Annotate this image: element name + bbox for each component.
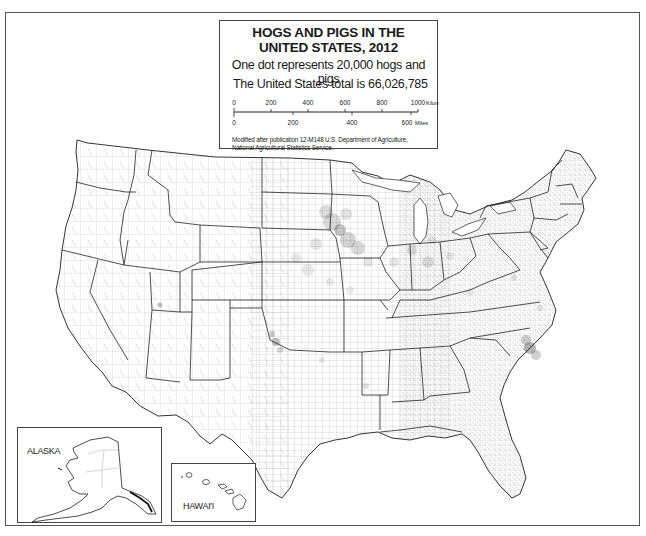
- credit-line2: National Agricultural Statistics Service…: [232, 144, 408, 152]
- km-tick-200: 200: [266, 99, 277, 106]
- mi-tick-600: 600: [402, 119, 413, 126]
- hawaii-inset: HAWAI'I: [171, 463, 256, 522]
- km-tick-1000: 1000: [411, 99, 426, 106]
- mi-tick-200: 200: [288, 119, 299, 126]
- total-text: The United States total is 66,026,785: [233, 77, 428, 91]
- mi-tick-0: 0: [232, 119, 236, 126]
- map-title: HOGS AND PIGS IN THE UNITED STATES, 2012: [220, 25, 437, 55]
- map-title-line1: HOGS AND PIGS IN THE: [220, 25, 437, 40]
- km-tick-0: 0: [232, 99, 236, 106]
- credit-line1: Modified after publication 12-M148 U.S. …: [232, 136, 408, 144]
- hawaii-shape: [172, 464, 257, 523]
- alaska-shape: [18, 428, 163, 524]
- alaska-inset: ALASKA: [17, 427, 162, 523]
- mi-tick-400: 400: [347, 119, 358, 126]
- map-title-line2: UNITED STATES, 2012: [220, 40, 437, 55]
- km-unit-label: Kilometers: [426, 100, 439, 106]
- km-tick-600: 600: [340, 99, 351, 106]
- scale-bar: 0 200 400 600 800 1000 Kilometers 0 200 …: [220, 95, 439, 135]
- source-credit: Modified after publication 12-M148 U.S. …: [232, 136, 408, 151]
- km-tick-800: 800: [377, 99, 388, 106]
- mi-unit-label: Miles: [415, 120, 428, 126]
- km-tick-400: 400: [303, 99, 314, 106]
- map-legend-box: HOGS AND PIGS IN THE UNITED STATES, 2012…: [219, 20, 438, 149]
